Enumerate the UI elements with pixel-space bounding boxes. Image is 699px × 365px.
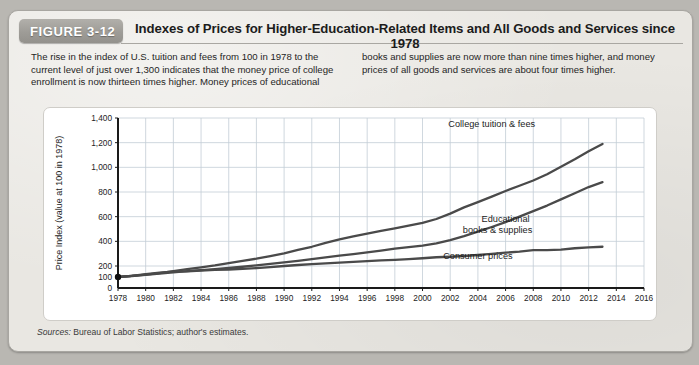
- x-tick-label: 2006: [496, 293, 515, 303]
- y-axis-title: Price Index (value at 100 in 1978): [54, 136, 64, 271]
- caption-text-right: books and supplies are now more than nin…: [362, 51, 671, 76]
- origin-marker-dot: [115, 274, 121, 280]
- chart-panel: 01002004006008001,0001,2001,400 19781980…: [43, 107, 657, 321]
- y-axis-tick-labels: 01002004006008001,0001,2001,400: [91, 113, 112, 293]
- x-tick-label: 1986: [220, 293, 239, 303]
- source-text: Bureau of Labor Statistics; author's est…: [73, 327, 248, 337]
- y-tick-label: 800: [98, 187, 112, 197]
- x-tick-label: 1994: [330, 293, 349, 303]
- series-line: [118, 247, 602, 277]
- source-note: Sources: Bureau of Labor Statistics; aut…: [37, 327, 248, 337]
- series-line: [118, 144, 602, 277]
- figure-caption: The rise in the index of U.S. tuition an…: [31, 51, 671, 89]
- figure-card: FIGURE 3-12 Indexes of Prices for Higher…: [8, 10, 693, 352]
- caption-column-left: The rise in the index of U.S. tuition an…: [31, 51, 340, 89]
- x-tick-label: 2000: [413, 293, 432, 303]
- axes: [115, 118, 644, 291]
- x-tick-label: 1982: [164, 293, 183, 303]
- series-labels: College tuition & feesEducationalbooks &…: [443, 119, 535, 262]
- line-chart: 01002004006008001,0001,2001,400 19781980…: [44, 108, 656, 320]
- x-tick-label: 1978: [109, 293, 128, 303]
- figure-number-tab: FIGURE 3-12: [19, 19, 123, 43]
- source-prefix: Sources:: [37, 327, 71, 337]
- x-tick-label: 2010: [552, 293, 571, 303]
- caption-column-right: books and supplies are now more than nin…: [362, 51, 671, 89]
- x-tick-label: 1996: [358, 293, 377, 303]
- x-tick-label: 1990: [275, 293, 294, 303]
- series-label: Consumer prices: [443, 251, 513, 261]
- figure-title: Indexes of Prices for Higher-Education-R…: [127, 21, 683, 51]
- caption-text-left: The rise in the index of U.S. tuition an…: [31, 51, 340, 89]
- x-tick-label: 2014: [607, 293, 626, 303]
- y-tick-label: 1,000: [91, 162, 112, 172]
- x-tick-label: 1998: [386, 293, 405, 303]
- x-tick-label: 1984: [192, 293, 211, 303]
- y-tick-label: 200: [98, 261, 112, 271]
- y-tick-label: 100: [98, 272, 112, 282]
- y-tick-label: 600: [98, 212, 112, 222]
- series-label: College tuition & fees: [448, 119, 535, 129]
- grid-lines: [118, 118, 644, 288]
- y-axis-title-text: Price Index (value at 100 in 1978): [54, 136, 64, 271]
- x-tick-label: 1988: [247, 293, 266, 303]
- x-tick-label: 2012: [579, 293, 598, 303]
- x-tick-label: 1980: [136, 293, 155, 303]
- x-tick-label: 2008: [524, 293, 543, 303]
- y-tick-label: 400: [98, 236, 112, 246]
- x-tick-label: 1992: [303, 293, 322, 303]
- figure-number-label: FIGURE 3-12: [30, 24, 115, 39]
- y-tick-label: 1,200: [91, 138, 112, 148]
- x-tick-label: 2002: [441, 293, 460, 303]
- x-tick-label: 2004: [469, 293, 488, 303]
- y-tick-label: 1,400: [91, 113, 112, 123]
- data-series: [115, 144, 603, 280]
- y-tick-label: 0: [107, 283, 112, 293]
- x-axis-tick-labels: 1978198019821984198619881990199219941996…: [109, 293, 654, 303]
- x-tick-label: 2016: [635, 293, 654, 303]
